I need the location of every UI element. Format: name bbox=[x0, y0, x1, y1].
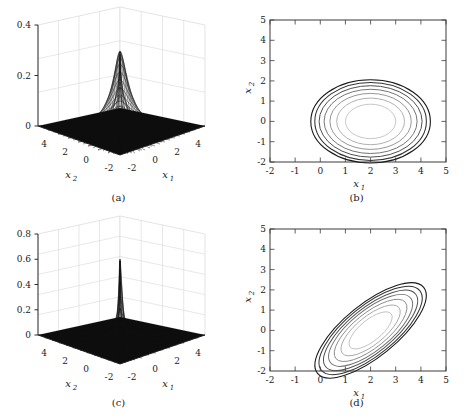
panel-a-xlabel-sub: 1 bbox=[170, 175, 174, 183]
panel-c-caption: (c) bbox=[0, 397, 237, 408]
panel-d-ytick-4: 2 bbox=[260, 285, 266, 295]
panel-b-svg: -2 -1 0 1 2 3 4 5 -2 -1 0 1 2 3 4 5 bbox=[238, 0, 475, 209]
panel-b-ytick-7: 5 bbox=[260, 15, 266, 25]
panel-a-ylabel: x bbox=[65, 169, 71, 180]
figure-panel-grid: 0 0.2 0.4 4 2 0 -2 -2 0 2 4 x 2 bbox=[0, 0, 475, 418]
panel-a-xtick-0: 0 bbox=[152, 155, 158, 165]
panel-b-ytick-0: -2 bbox=[257, 157, 266, 167]
panel-d-caption: (d) bbox=[238, 397, 475, 408]
panel-b-ytick-1: -1 bbox=[257, 137, 266, 147]
panel-a-ztick-1: 0.2 bbox=[17, 71, 31, 81]
panel-a-xtick-m2: -2 bbox=[128, 163, 137, 173]
panel-b-xtick-6: 4 bbox=[418, 166, 424, 176]
panel-d-xtick-6: 4 bbox=[418, 375, 424, 385]
panel-d-contour-plot: -2 -1 0 1 2 3 4 5 -2 -1 0 1 2 3 4 5 x bbox=[238, 209, 475, 418]
panel-c-xtick-4: 4 bbox=[195, 348, 201, 358]
panel-c-ztick-2: 0.4 bbox=[17, 280, 32, 290]
panel-a-xlabel: x bbox=[162, 169, 168, 180]
panel-b-ytick-4: 2 bbox=[260, 76, 266, 86]
panel-d-ytick-7: 5 bbox=[260, 224, 266, 234]
panel-c-ztick-3: 0.6 bbox=[17, 254, 32, 264]
panel-d-x-ticklabels: -2 -1 0 1 2 3 4 5 bbox=[266, 375, 450, 385]
panel-b-ytick-5: 3 bbox=[260, 56, 266, 66]
panel-d-ytick-1: -1 bbox=[257, 346, 266, 356]
panel-b-ytick-6: 4 bbox=[260, 35, 266, 45]
panel-b-caption: (b) bbox=[238, 192, 475, 203]
panel-d-ytick-5: 3 bbox=[260, 265, 266, 275]
panel-c-ytick-4: 4 bbox=[41, 348, 47, 358]
panel-a-caption: (a) bbox=[0, 192, 237, 203]
panel-b-ylabel-sub: 2 bbox=[248, 81, 256, 87]
panel-b-y-ticklabels: -2 -1 0 1 2 3 4 5 bbox=[257, 15, 266, 167]
panel-a-ztick-0: 0 bbox=[25, 121, 31, 131]
panel-b-xtick-7: 5 bbox=[443, 166, 449, 176]
panel-a-z-ticks: 0 0.2 0.4 bbox=[17, 20, 38, 131]
panel-b-x-ticklabels: -2 -1 0 1 2 3 4 5 bbox=[266, 166, 450, 176]
panel-a-ytick-m2: -2 bbox=[105, 163, 114, 173]
panel-d-xtick-2: 0 bbox=[317, 375, 323, 385]
panel-c-xtick-m2: -2 bbox=[128, 372, 137, 382]
panel-c-ytick-0: 0 bbox=[83, 364, 89, 374]
panel-a-svg: 0 0.2 0.4 4 2 0 -2 -2 0 2 4 x 2 bbox=[0, 0, 237, 209]
panel-d-xtick-3: 1 bbox=[343, 375, 349, 385]
panel-a-ytick-0: 0 bbox=[83, 155, 89, 165]
panel-d-xtick-1: -1 bbox=[291, 375, 300, 385]
panel-d-xtick-7: 5 bbox=[443, 375, 449, 385]
panel-b-xlabel: x bbox=[353, 178, 359, 189]
panel-a-ylabel-sub: 2 bbox=[72, 175, 78, 183]
panel-c-ytick-m2: -2 bbox=[105, 372, 114, 382]
panel-c-axis-labels: x 2 x 1 bbox=[65, 378, 174, 392]
panel-c-ztick-0: 0 bbox=[25, 330, 31, 340]
panel-c-xlabel-sub: 1 bbox=[170, 384, 174, 392]
panel-d-y-ticklabels: -2 -1 0 1 2 3 4 5 bbox=[257, 224, 266, 376]
panel-a-xtick-2: 2 bbox=[174, 147, 180, 157]
panel-c-ztick-4: 0.8 bbox=[17, 229, 32, 239]
panel-b-xtick-4: 2 bbox=[368, 166, 374, 176]
panel-d-frame bbox=[270, 229, 446, 371]
panel-a-axis-labels: x 2 x 1 bbox=[65, 169, 174, 183]
panel-d-xtick-5: 3 bbox=[393, 375, 399, 385]
panel-b-xtick-0: -2 bbox=[266, 166, 275, 176]
panel-c-xtick-0: 0 bbox=[152, 364, 158, 374]
panel-b-xtick-5: 3 bbox=[393, 166, 399, 176]
panel-a-xtick-4: 4 bbox=[195, 139, 201, 149]
panel-a-surface-plot: 0 0.2 0.4 4 2 0 -2 -2 0 2 4 x 2 bbox=[0, 0, 237, 209]
panel-c-ytick-2: 2 bbox=[62, 356, 68, 366]
panel-b-xtick-1: -1 bbox=[291, 166, 300, 176]
panel-c-ylabel: x bbox=[65, 378, 71, 389]
panel-b-xlabel-sub: 1 bbox=[361, 184, 365, 192]
panel-b-ytick-3: 1 bbox=[260, 96, 266, 106]
panel-c-xtick-2: 2 bbox=[174, 356, 180, 366]
panel-b-xtick-3: 1 bbox=[343, 166, 349, 176]
panel-a-ztick-2: 0.4 bbox=[17, 20, 32, 30]
panel-b-ytick-2: 0 bbox=[260, 116, 266, 126]
panel-c-ztick-1: 0.2 bbox=[17, 305, 31, 315]
panel-b-contour-plot: -2 -1 0 1 2 3 4 5 -2 -1 0 1 2 3 4 5 bbox=[238, 0, 475, 209]
panel-c-xlabel: x bbox=[162, 378, 168, 389]
panel-d-svg: -2 -1 0 1 2 3 4 5 -2 -1 0 1 2 3 4 5 x bbox=[238, 209, 475, 418]
panel-a-ytick-4: 4 bbox=[41, 139, 47, 149]
panel-b-ylabel: x bbox=[242, 88, 253, 94]
panel-c-surface-plot: 0 0.2 0.4 0.6 0.8 4 2 0 -2 -2 0 2 4 x 2 bbox=[0, 209, 237, 418]
panel-d-xtick-0: -2 bbox=[266, 375, 275, 385]
panel-a-ytick-2: 2 bbox=[62, 147, 68, 157]
panel-d-ytick-6: 4 bbox=[260, 244, 266, 254]
panel-c-ylabel-sub: 2 bbox=[72, 384, 78, 392]
panel-d-ylabel: x bbox=[242, 297, 253, 303]
panel-d-ytick-0: -2 bbox=[257, 366, 266, 376]
panel-d-xtick-4: 2 bbox=[368, 375, 374, 385]
panel-d-ylabel-sub: 2 bbox=[248, 290, 256, 296]
panel-d-ytick-3: 1 bbox=[260, 305, 266, 315]
panel-c-z-ticks: 0 0.2 0.4 0.6 0.8 bbox=[17, 229, 38, 340]
panel-b-xtick-2: 0 bbox=[317, 166, 323, 176]
panel-c-svg: 0 0.2 0.4 0.6 0.8 4 2 0 -2 -2 0 2 4 x 2 bbox=[0, 209, 237, 418]
panel-d-ytick-2: 0 bbox=[260, 325, 266, 335]
